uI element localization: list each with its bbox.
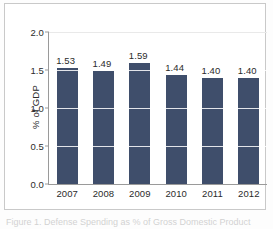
- bar-rect: [57, 68, 78, 184]
- x-tick-label: 2009: [123, 188, 157, 199]
- bar-rect: [202, 78, 223, 184]
- gridline: [49, 146, 267, 147]
- bar-rect: [166, 75, 187, 184]
- x-tick-label: 2010: [159, 188, 193, 199]
- bar-value-label: 1.53: [56, 55, 75, 66]
- figure-root: % of GDP 0.00.51.01.52.0 1.531.491.591.4…: [0, 0, 273, 229]
- plot-area: 0.00.51.01.52.0 1.531.491.591.441.401.40: [49, 32, 267, 184]
- bar-value-label: 1.40: [238, 65, 257, 76]
- bar-2012: [238, 78, 259, 184]
- x-tick-label: 2011: [196, 188, 230, 199]
- bar-2010: [166, 75, 187, 184]
- bar-2011: [202, 78, 223, 184]
- gridline: [49, 70, 267, 71]
- chart-frame: % of GDP 0.00.51.01.52.0 1.531.491.591.4…: [4, 3, 266, 210]
- bar-value-label: 1.44: [165, 62, 184, 73]
- bar-2009: [129, 63, 150, 184]
- bar-value-label: 1.40: [202, 65, 221, 76]
- bar-value-label: 1.49: [93, 58, 112, 69]
- bar-2007: [57, 68, 78, 184]
- bar-rect: [238, 78, 259, 184]
- gridline: [49, 108, 267, 109]
- x-tick-label: 2007: [50, 188, 84, 199]
- bar-rect: [129, 63, 150, 184]
- x-tick-label: 2012: [232, 188, 266, 199]
- x-axis-line: [48, 184, 267, 185]
- bar-rect: [93, 71, 114, 184]
- bar-value-label: 1.59: [129, 50, 148, 61]
- bar-2008: [93, 71, 114, 184]
- x-tick-label: 2008: [87, 188, 121, 199]
- figure-caption: Figure 1. Defense Spending as % of Gross…: [6, 216, 268, 227]
